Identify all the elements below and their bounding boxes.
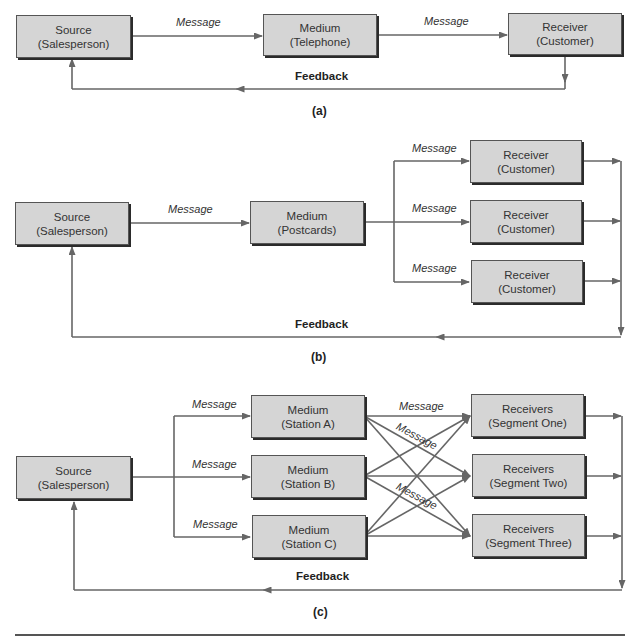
source-box: Source (Salesperson) — [15, 202, 129, 245]
box-title: Receiver — [503, 148, 548, 162]
box-subtitle: (Segment Two) — [490, 476, 568, 490]
box-subtitle: (Postcards) — [278, 223, 337, 237]
box-title: Source — [55, 23, 91, 37]
box-title: Medium — [287, 209, 328, 223]
medium-box: Medium (Station C) — [252, 515, 366, 558]
box-subtitle: (Salesperson) — [36, 224, 108, 238]
box-title: Receivers — [502, 402, 553, 416]
medium-box: Medium (Station A) — [251, 395, 365, 438]
message-label: Message — [176, 16, 221, 28]
message-label: Message — [192, 458, 237, 470]
feedback-label: Feedback — [295, 318, 348, 330]
message-label: Message — [168, 203, 213, 215]
box-title: Source — [55, 464, 91, 478]
source-box: Source (Salesperson) — [16, 456, 131, 499]
message-label: Message — [424, 15, 469, 27]
receivers-box: Receivers (Segment One) — [471, 394, 584, 437]
box-subtitle: (Station A) — [281, 417, 335, 431]
message-label: Message — [399, 400, 444, 412]
source-box: Source (Salesperson) — [16, 15, 131, 58]
bottom-rule-divider — [15, 634, 625, 636]
panel-caption: (c) — [313, 605, 328, 619]
receivers-box: Receivers (Segment Three) — [472, 514, 585, 557]
box-title: Receiver — [504, 268, 549, 282]
message-label: Message — [193, 518, 238, 530]
receiver-box: Receiver (Customer) — [508, 13, 622, 55]
receiver-box: Receiver (Customer) — [470, 200, 582, 243]
message-label: Message — [412, 262, 457, 274]
box-title: Receivers — [503, 522, 554, 536]
panel-caption: (b) — [311, 350, 326, 364]
box-title: Medium — [288, 403, 329, 417]
message-label: Message — [412, 142, 457, 154]
box-subtitle: (Salesperson) — [38, 478, 110, 492]
box-subtitle: (Customer) — [497, 222, 555, 236]
box-subtitle: (Segment Three) — [485, 536, 572, 550]
feedback-label: Feedback — [296, 570, 349, 582]
medium-box: Medium (Station B) — [251, 455, 365, 498]
medium-box: Medium (Telephone) — [263, 14, 377, 56]
box-title: Medium — [288, 463, 329, 477]
feedback-label: Feedback — [295, 70, 348, 82]
box-subtitle: (Station B) — [281, 477, 335, 491]
message-label: Message — [412, 202, 457, 214]
box-title: Receiver — [503, 208, 548, 222]
box-subtitle: (Customer) — [536, 34, 594, 48]
box-title: Receivers — [503, 462, 554, 476]
box-title: Receiver — [542, 20, 587, 34]
receiver-box: Receiver (Customer) — [471, 260, 583, 303]
box-subtitle: (Salesperson) — [38, 37, 110, 51]
box-title: Medium — [300, 21, 341, 35]
receiver-box: Receiver (Customer) — [470, 140, 582, 183]
box-subtitle: (Telephone) — [290, 35, 351, 49]
box-title: Medium — [289, 523, 330, 537]
message-label: Message — [192, 398, 237, 410]
box-subtitle: (Customer) — [498, 282, 556, 296]
box-subtitle: (Segment One) — [488, 416, 567, 430]
box-subtitle: (Station C) — [282, 537, 337, 551]
receivers-box: Receivers (Segment Two) — [472, 454, 585, 497]
medium-box: Medium (Postcards) — [250, 201, 364, 244]
box-title: Source — [54, 210, 90, 224]
panel-caption: (a) — [312, 104, 327, 118]
box-subtitle: (Customer) — [497, 162, 555, 176]
